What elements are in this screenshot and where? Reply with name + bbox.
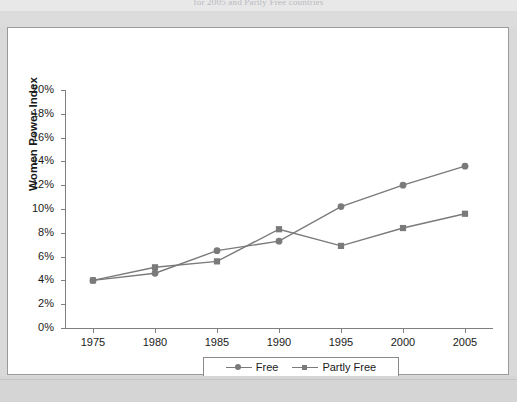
data-point-partly-free[interactable] (462, 211, 468, 217)
data-point-partly-free[interactable] (152, 264, 158, 270)
legend-swatch-circle-icon (226, 362, 252, 372)
chart-legend: Free Partly Free (203, 357, 399, 377)
caption-strip: for 2005 and Partly Free countries (0, 0, 517, 11)
series-layer (8, 28, 508, 374)
data-point-free[interactable] (400, 182, 407, 189)
legend-label-partly-free: Partly Free (322, 361, 376, 373)
data-point-free[interactable] (276, 238, 283, 245)
data-point-free[interactable] (462, 163, 469, 170)
data-point-partly-free[interactable] (276, 226, 282, 232)
legend-item-partly-free[interactable]: Partly Free (292, 361, 376, 373)
data-point-partly-free[interactable] (400, 225, 406, 231)
plot-area: Women Power Index 0%2%4%6%8%10%12%14%16%… (8, 28, 508, 374)
data-point-partly-free[interactable] (90, 277, 96, 283)
bottom-strip (0, 376, 517, 402)
series-line-free (93, 166, 465, 280)
data-point-free[interactable] (338, 203, 345, 210)
data-point-free[interactable] (214, 247, 221, 254)
chart-panel: Women Power Index 0%2%4%6%8%10%12%14%16%… (7, 27, 509, 375)
caption-text: for 2005 and Partly Free countries (193, 0, 323, 7)
data-point-partly-free[interactable] (338, 243, 344, 249)
series-line-partly-free (93, 214, 465, 281)
data-point-partly-free[interactable] (214, 258, 220, 264)
panel-gap (0, 11, 517, 27)
legend-item-free[interactable]: Free (226, 361, 279, 373)
data-point-free[interactable] (152, 270, 159, 277)
legend-label-free: Free (256, 361, 279, 373)
legend-swatch-square-icon (292, 362, 318, 372)
